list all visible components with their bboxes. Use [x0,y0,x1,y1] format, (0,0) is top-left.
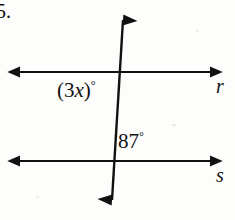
scan-artifact [36,196,39,198]
angle-87-value: 87 [118,129,139,153]
degree-symbol-icon: ° [139,129,143,143]
scan-artifact [196,30,199,32]
problem-number: 5. [0,1,11,21]
line-label-r: r [216,76,224,96]
scan-artifact [172,124,176,126]
angle-3x-variable: x [75,78,84,102]
line-label-s: s [216,165,224,185]
angle-label-3x: (3x)° [57,79,95,101]
angle-label-87: 87° [118,130,143,152]
transversal-segment [112,20,123,200]
geometry-figure: 5. (3x)° 87° r s [0,0,235,220]
angle-3x-coefficient: 3 [64,78,75,102]
angle-3x-open-paren: ( [57,78,64,102]
angle-3x-close-paren: ) [84,78,91,102]
figure-lines-svg [0,0,235,220]
degree-symbol-icon: ° [91,78,95,92]
